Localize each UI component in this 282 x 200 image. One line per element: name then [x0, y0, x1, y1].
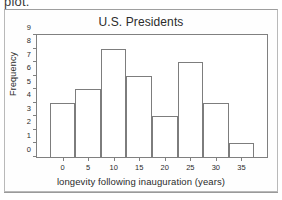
screenshot-root: plot. U.S. Presidents Frequency 01234567…	[0, 0, 282, 200]
y-axis-tick-label: 0	[27, 144, 31, 153]
y-axis-tick-label: 6	[27, 63, 31, 72]
y-axis-title: Frequency	[8, 52, 18, 96]
chart-title: U.S. Presidents	[0, 15, 282, 29]
y-axis-tick	[33, 75, 37, 76]
histogram-bar	[50, 103, 76, 157]
plot-area: 012345678905101520253035	[36, 34, 268, 158]
y-axis-tick	[33, 115, 37, 116]
x-axis-tick-label: 20	[161, 163, 169, 172]
x-axis-tick	[241, 157, 242, 161]
y-axis-tick	[33, 88, 37, 89]
histogram-bar	[229, 143, 255, 157]
histogram-bar	[203, 103, 229, 157]
y-axis-tick-label: 7	[27, 49, 31, 58]
histogram-bar	[101, 49, 127, 157]
x-axis-tick	[165, 157, 166, 161]
x-axis-tick	[88, 157, 89, 161]
x-axis-title: longevity following inauguration (years)	[0, 176, 282, 187]
y-axis-tick-label: 5	[27, 76, 31, 85]
histogram-bar	[152, 116, 178, 157]
y-axis-tick	[33, 34, 37, 35]
x-axis-tick	[63, 157, 64, 161]
histogram-bar	[178, 62, 204, 157]
x-axis-tick-label: 25	[186, 163, 194, 172]
x-axis-tick	[114, 157, 115, 161]
x-axis-tick-label: 35	[237, 163, 245, 172]
x-axis-tick	[139, 157, 140, 161]
y-axis-tick-label: 9	[27, 22, 31, 31]
y-axis-tick-label: 4	[27, 90, 31, 99]
y-axis-tick-label: 1	[27, 130, 31, 139]
x-axis-tick	[190, 157, 191, 161]
y-axis-tick	[33, 102, 37, 103]
page-frame-bottom-rule	[4, 192, 278, 193]
histogram-figure: U.S. Presidents Frequency 01234567890510…	[0, 0, 282, 192]
x-axis-tick-label: 10	[109, 163, 117, 172]
x-axis-tick-label: 30	[212, 163, 220, 172]
y-axis-tick	[33, 61, 37, 62]
y-axis-tick	[33, 48, 37, 49]
plot-inner: 012345678905101520253035	[37, 35, 267, 157]
y-axis-tick	[33, 156, 37, 157]
y-axis-tick	[33, 129, 37, 130]
y-axis-tick-label: 3	[27, 103, 31, 112]
x-axis-tick-label: 0	[60, 163, 64, 172]
histogram-bar	[75, 89, 101, 157]
x-axis-tick-label: 5	[86, 163, 90, 172]
y-axis-tick-label: 2	[27, 117, 31, 126]
y-axis-tick	[33, 142, 37, 143]
y-axis-tick-label: 8	[27, 36, 31, 45]
x-axis-tick-label: 15	[135, 163, 143, 172]
x-axis-tick	[216, 157, 217, 161]
histogram-bar	[126, 76, 152, 157]
